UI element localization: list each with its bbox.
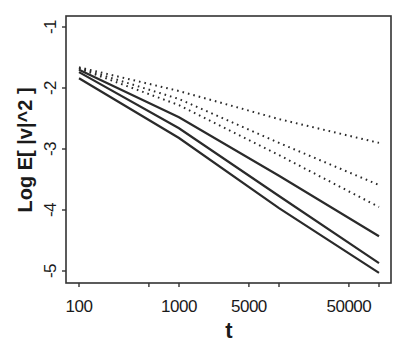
x-axis-title: t	[225, 318, 233, 343]
series-line-solid-2	[79, 72, 379, 263]
series-group	[79, 67, 379, 272]
y-tick-label: -2	[41, 81, 60, 95]
plot-frame	[66, 16, 391, 283]
y-tick-label: -4	[41, 203, 60, 217]
chart: 1001000500050000 -1-2-3-4-5 t Log E[ |v|…	[0, 0, 401, 358]
series-line-solid-3	[79, 78, 379, 273]
x-tick-label: 100	[66, 297, 93, 316]
y-tick-label: -5	[41, 264, 60, 278]
x-tick-label: 1000	[161, 297, 197, 316]
y-tick-label: -3	[41, 142, 60, 156]
series-line-solid-1	[79, 70, 379, 237]
x-tick-label: 5000	[231, 297, 267, 316]
series-line-dotted-3	[79, 69, 379, 208]
y-axis-ticks: -1-2-3-4-5	[41, 20, 66, 278]
y-tick-label: -1	[41, 20, 60, 34]
x-axis-ticks: 1001000500050000	[66, 283, 379, 316]
x-tick-label: 50000	[327, 297, 372, 316]
plot-svg: 1001000500050000 -1-2-3-4-5 t Log E[ |v|…	[0, 0, 401, 358]
y-axis-title: Log E[ |v|^2 ]	[14, 87, 36, 212]
series-line-dotted-2	[79, 68, 379, 185]
